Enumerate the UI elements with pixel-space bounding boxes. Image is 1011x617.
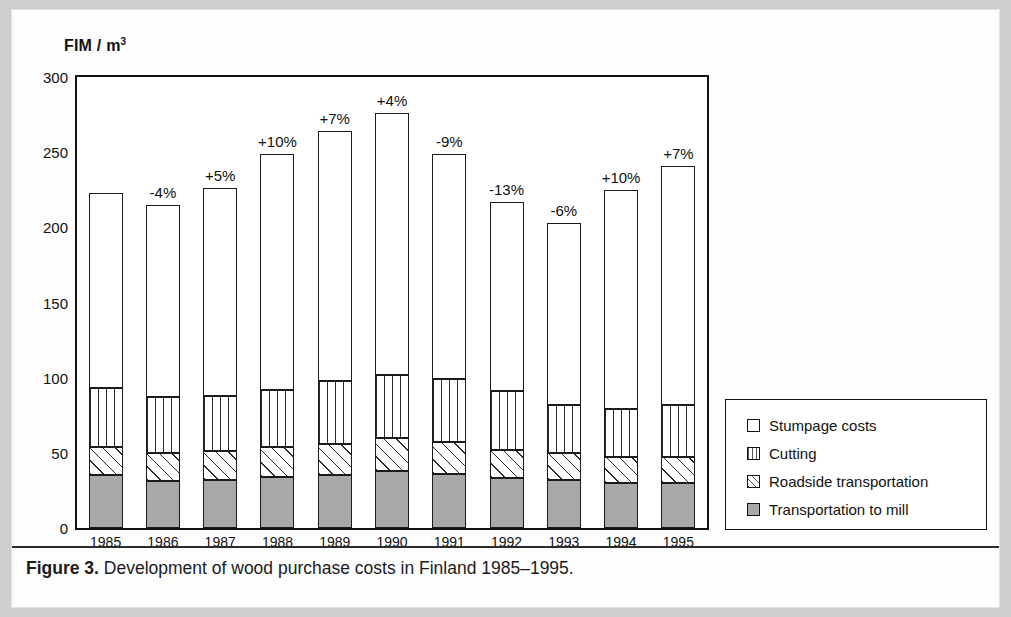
bar-segment-cutting-1985[interactable] <box>89 388 123 447</box>
chart-figure: FIM / m3 050100150200250300 -4%+5%+10%+7… <box>12 10 999 541</box>
bar-1988[interactable] <box>260 154 294 528</box>
bar-1994[interactable] <box>604 190 638 528</box>
legend-swatch-roadside-icon <box>747 475 760 488</box>
change-label-1992: -13% <box>489 181 524 198</box>
bar-segment-mill-1991[interactable] <box>432 474 466 528</box>
change-label-1988: +10% <box>258 133 297 150</box>
change-label-1991: -9% <box>436 133 463 150</box>
bar-segment-roadside-1991[interactable] <box>432 442 466 474</box>
bar-segment-mill-1994[interactable] <box>604 483 638 528</box>
y-axis-unit-separator: / <box>97 37 102 54</box>
bar-segment-cutting-1989[interactable] <box>318 381 352 444</box>
bar-segment-stumpage-1994[interactable] <box>604 190 638 409</box>
bar-1990[interactable] <box>375 113 409 528</box>
bar-segment-stumpage-1995[interactable] <box>661 166 695 405</box>
bars-container: -4%+5%+10%+7%+4%-9%-13%-6%+10%+7% <box>77 77 707 528</box>
bar-segment-cutting-1986[interactable] <box>146 397 180 453</box>
y-axis-tick-250: 250 <box>26 144 68 161</box>
bar-1987[interactable] <box>203 188 237 528</box>
bar-segment-stumpage-1993[interactable] <box>547 223 581 405</box>
bar-1985[interactable] <box>89 193 123 528</box>
legend-swatch-mill-icon <box>747 503 760 516</box>
legend-item-cutting[interactable]: Cutting <box>747 442 817 464</box>
bar-segment-roadside-1995[interactable] <box>661 457 695 483</box>
change-label-1993: -6% <box>550 202 577 219</box>
bar-segment-mill-1993[interactable] <box>547 480 581 528</box>
bar-segment-cutting-1988[interactable] <box>260 390 294 447</box>
bar-segment-roadside-1993[interactable] <box>547 453 581 480</box>
bar-segment-mill-1985[interactable] <box>89 475 123 528</box>
y-axis-unit-exponent: 3 <box>121 36 127 47</box>
x-axis-tick-labels: 1985198619871988198919901991199219931994… <box>75 534 709 556</box>
page-background: FIM / m3 050100150200250300 -4%+5%+10%+7… <box>0 0 1011 617</box>
y-axis-tick-150: 150 <box>26 294 68 311</box>
legend-item-stumpage[interactable]: Stumpage costs <box>747 414 877 436</box>
bar-1991[interactable] <box>432 154 466 528</box>
bar-segment-cutting-1987[interactable] <box>203 396 237 452</box>
bar-1995[interactable] <box>661 166 695 528</box>
bar-segment-roadside-1985[interactable] <box>89 447 123 476</box>
bar-segment-roadside-1992[interactable] <box>490 450 524 479</box>
bar-segment-cutting-1994[interactable] <box>604 409 638 457</box>
bar-segment-mill-1988[interactable] <box>260 477 294 528</box>
bar-1992[interactable] <box>490 202 524 528</box>
bar-segment-stumpage-1986[interactable] <box>146 205 180 397</box>
bar-segment-cutting-1995[interactable] <box>661 405 695 458</box>
legend-swatch-cutting-icon <box>747 447 760 460</box>
figure-caption: Figure 3. Development of wood purchase c… <box>26 558 986 579</box>
bar-segment-mill-1986[interactable] <box>146 481 180 528</box>
bar-segment-roadside-1988[interactable] <box>260 447 294 477</box>
bar-segment-roadside-1989[interactable] <box>318 444 352 476</box>
bar-segment-stumpage-1990[interactable] <box>375 113 409 375</box>
bar-segment-mill-1990[interactable] <box>375 471 409 528</box>
legend-item-mill[interactable]: Transportation to mill <box>747 498 909 520</box>
figure-number: Figure 3. <box>26 558 99 578</box>
bar-segment-cutting-1992[interactable] <box>490 391 524 450</box>
bar-segment-mill-1995[interactable] <box>661 483 695 528</box>
bar-segment-roadside-1994[interactable] <box>604 457 638 483</box>
legend-item-roadside[interactable]: Roadside transportation <box>747 470 928 492</box>
legend-label-roadside: Roadside transportation <box>769 473 928 490</box>
y-axis-tick-300: 300 <box>26 69 68 86</box>
bar-segment-cutting-1990[interactable] <box>375 375 409 438</box>
bar-segment-roadside-1990[interactable] <box>375 438 409 471</box>
change-label-1986: -4% <box>150 184 177 201</box>
change-label-1987: +5% <box>205 167 235 184</box>
change-label-1994: +10% <box>602 169 641 186</box>
bar-segment-cutting-1991[interactable] <box>432 379 466 442</box>
bar-segment-stumpage-1991[interactable] <box>432 154 466 380</box>
y-axis-tick-200: 200 <box>26 219 68 236</box>
bar-segment-stumpage-1987[interactable] <box>203 188 237 395</box>
caption-text: Development of wood purchase costs in Fi… <box>104 558 574 578</box>
bar-segment-roadside-1987[interactable] <box>203 451 237 480</box>
y-axis-unit-base: m <box>106 37 120 54</box>
figure-sheet: FIM / m3 050100150200250300 -4%+5%+10%+7… <box>12 10 999 607</box>
bar-segment-roadside-1986[interactable] <box>146 453 180 482</box>
legend-label-cutting: Cutting <box>769 445 817 462</box>
bar-segment-stumpage-1992[interactable] <box>490 202 524 391</box>
caption-divider <box>12 546 999 548</box>
chart-legend: Stumpage costsCuttingRoadside transporta… <box>725 399 987 530</box>
y-axis-unit-label: FIM / m3 <box>64 36 126 55</box>
bar-segment-stumpage-1988[interactable] <box>260 154 294 390</box>
y-axis-tick-50: 50 <box>26 444 68 461</box>
bar-segment-mill-1992[interactable] <box>490 478 524 528</box>
y-axis-tick-labels: 050100150200250300 <box>20 75 68 530</box>
bar-1993[interactable] <box>547 223 581 528</box>
bar-1989[interactable] <box>318 131 352 528</box>
bar-segment-stumpage-1985[interactable] <box>89 193 123 388</box>
y-axis-tick-100: 100 <box>26 369 68 386</box>
bar-segment-stumpage-1989[interactable] <box>318 131 352 381</box>
bar-segment-mill-1989[interactable] <box>318 475 352 528</box>
bar-segment-cutting-1993[interactable] <box>547 405 581 453</box>
bar-segment-mill-1987[interactable] <box>203 480 237 528</box>
y-axis-tick-0: 0 <box>26 520 68 537</box>
plot-area: -4%+5%+10%+7%+4%-9%-13%-6%+10%+7% <box>75 75 709 530</box>
y-axis-unit-prefix: FIM <box>64 37 92 54</box>
change-label-1989: +7% <box>319 110 349 127</box>
bar-1986[interactable] <box>146 205 180 528</box>
legend-label-mill: Transportation to mill <box>769 501 909 518</box>
legend-swatch-stumpage-icon <box>747 419 760 432</box>
change-label-1995: +7% <box>663 145 693 162</box>
change-label-1990: +4% <box>377 92 407 109</box>
